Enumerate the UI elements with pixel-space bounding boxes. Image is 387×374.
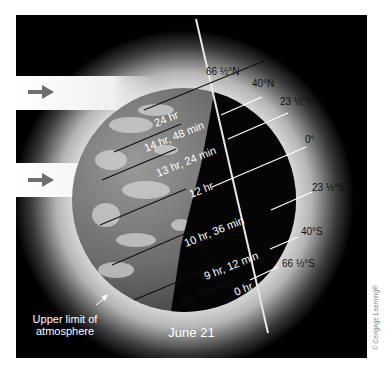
svg-text:40°N: 40°N xyxy=(252,78,274,89)
svg-text:23 ½°S: 23 ½°S xyxy=(312,182,345,193)
earth-daylight-diagram: 24 hr 14 hr, 48 min 13 hr, 24 min 12 hr … xyxy=(16,15,367,358)
annotation-line-1: Upper limit of xyxy=(20,313,110,325)
diagram-panel: 24 hr 14 hr, 48 min 13 hr, 24 min 12 hr … xyxy=(16,15,367,358)
svg-text:40°S: 40°S xyxy=(301,226,323,237)
svg-text:23 ½°N: 23 ½°N xyxy=(280,96,313,107)
diagram-caption: June 21 xyxy=(16,325,367,340)
svg-text:66 ½°S: 66 ½°S xyxy=(282,258,315,269)
svg-text:0°: 0° xyxy=(305,134,315,145)
copyright-credit: © Cengage Learning® xyxy=(372,285,379,350)
svg-text:66 ½°N: 66 ½°N xyxy=(206,66,239,77)
